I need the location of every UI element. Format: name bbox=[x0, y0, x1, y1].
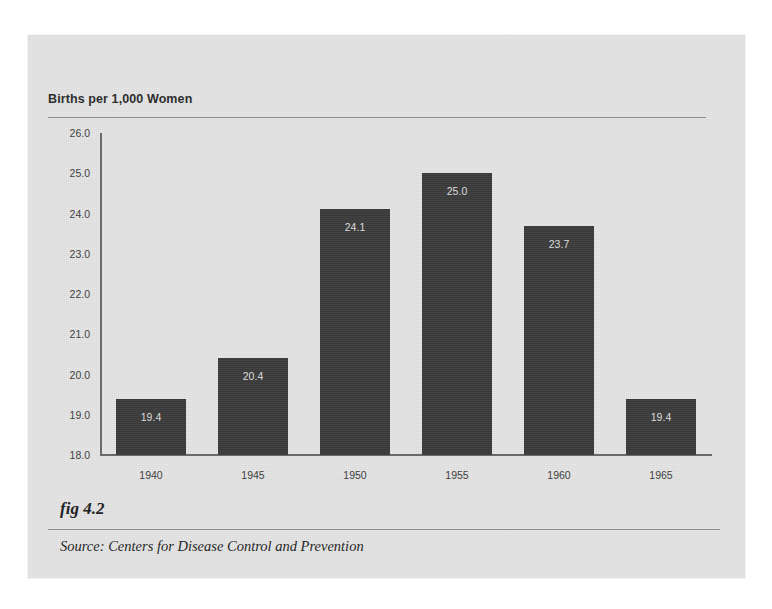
bar: 20.4 bbox=[218, 358, 288, 455]
x-axis-tick-label: 1965 bbox=[649, 469, 672, 481]
bar-value-label: 23.7 bbox=[524, 238, 594, 250]
chart-title: Births per 1,000 Women bbox=[48, 92, 192, 106]
y-axis-tick-label: 20.0 bbox=[44, 369, 90, 381]
y-axis-tick-label: 18.0 bbox=[44, 449, 90, 461]
figure-panel: Births per 1,000 Women 26.025.024.023.02… bbox=[28, 35, 745, 578]
x-axis-tick-label: 1950 bbox=[343, 469, 366, 481]
x-axis-tick-label: 1955 bbox=[445, 469, 468, 481]
bar: 19.4 bbox=[116, 399, 186, 455]
figure-number-label: fig 4.2 bbox=[60, 499, 104, 519]
bar: 23.7 bbox=[524, 226, 594, 455]
x-axis-line bbox=[100, 454, 712, 456]
y-axis-tick-label: 23.0 bbox=[44, 248, 90, 260]
bar-value-label: 19.4 bbox=[116, 411, 186, 423]
x-axis-tick-label: 1960 bbox=[547, 469, 570, 481]
bar: 25.0 bbox=[422, 173, 492, 455]
y-axis-line bbox=[100, 133, 102, 455]
bar-value-label: 24.1 bbox=[320, 221, 390, 233]
y-axis-tick-label: 19.0 bbox=[44, 409, 90, 421]
y-axis-tick-label: 22.0 bbox=[44, 288, 90, 300]
x-axis-tick-label: 1945 bbox=[241, 469, 264, 481]
bar-value-label: 25.0 bbox=[422, 185, 492, 197]
x-axis-tick-label: 1940 bbox=[139, 469, 162, 481]
bar-value-label: 19.4 bbox=[626, 411, 696, 423]
plot-area: 26.025.024.023.022.021.020.019.018.0 19.… bbox=[100, 133, 712, 455]
y-axis-tick-label: 21.0 bbox=[44, 328, 90, 340]
bar: 24.1 bbox=[320, 209, 390, 455]
y-axis-tick-label: 25.0 bbox=[44, 167, 90, 179]
title-divider bbox=[48, 117, 706, 118]
bar-value-label: 20.4 bbox=[218, 370, 288, 382]
bar: 19.4 bbox=[626, 399, 696, 455]
source-note: Source: Centers for Disease Control and … bbox=[60, 538, 364, 555]
caption-divider bbox=[48, 529, 720, 530]
y-axis-tick-label: 24.0 bbox=[44, 208, 90, 220]
y-axis-tick-label: 26.0 bbox=[44, 127, 90, 139]
